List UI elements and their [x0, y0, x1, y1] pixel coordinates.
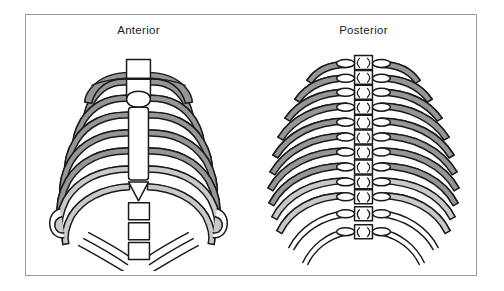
panel-anterior: Anterior	[26, 15, 251, 275]
panel-label-posterior: Posterior	[251, 24, 476, 36]
anterior-ribcage-illustration	[26, 41, 251, 271]
panel-posterior: Posterior	[251, 15, 476, 275]
posterior-ribcage-illustration	[251, 41, 476, 271]
figure-frame: Anterior	[25, 14, 477, 276]
panel-label-anterior: Anterior	[26, 24, 251, 36]
